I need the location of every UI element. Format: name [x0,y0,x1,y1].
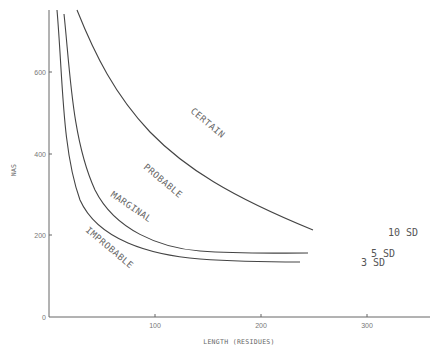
y-tick-0: 0 [42,314,46,321]
region-marginal: MARGINAL [109,189,154,224]
nas-vs-length-chart: 0 200 400 600 100 200 300 NAS LENGTH (RE… [0,0,438,353]
x-ticks: 100 200 300 [149,314,373,329]
y-tick-600: 600 [34,69,46,76]
region-certain: CERTAIN [189,106,227,140]
x-tick-300: 300 [361,322,373,329]
y-tick-200: 200 [34,232,46,239]
y-axis-title: NAS [10,164,18,177]
curve-5sd [64,14,308,253]
label-3sd: 3 SD [361,257,385,268]
y-tick-400: 400 [34,151,46,158]
x-axis-title: LENGTH (RESIDUES) [203,338,275,346]
x-tick-100: 100 [149,322,161,329]
region-improbable: IMPROBABLE [84,225,136,271]
x-tick-200: 200 [255,322,267,329]
label-10sd: 10 SD [388,227,418,238]
region-probable: PROBABLE [142,162,185,200]
